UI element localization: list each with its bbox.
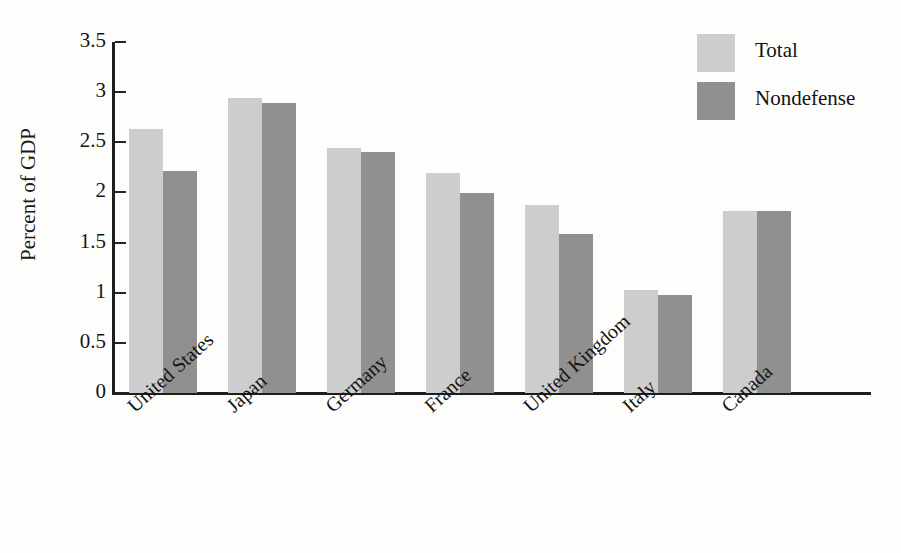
bar-nondefense-france	[460, 193, 494, 393]
y-axis-tick-label: 2.5	[0, 130, 106, 151]
legend-label-total: Total	[755, 38, 798, 63]
bar-chart: Percent of GDP 3.532.521.510.50 United S…	[0, 0, 901, 553]
bar-total-canada	[723, 211, 757, 393]
bar-nondefense-italy	[658, 295, 692, 393]
y-axis-tick-label: 0.5	[0, 331, 106, 352]
legend-swatch-nondefense	[697, 82, 735, 120]
y-axis-tick-label: 3	[0, 80, 106, 101]
bar-total-united-states	[129, 129, 163, 393]
y-axis-tick-label: 1.5	[0, 231, 106, 252]
y-axis-tick-label: 2	[0, 180, 106, 201]
bar-total-united-kingdom	[525, 205, 559, 393]
bar-nondefense-japan	[262, 103, 296, 393]
bar-total-germany	[327, 148, 361, 393]
y-axis-tick-label: 3.5	[0, 30, 106, 51]
legend-label-nondefense: Nondefense	[755, 86, 855, 111]
bar-total-japan	[228, 98, 262, 393]
bar-total-france	[426, 173, 460, 393]
y-axis-tick-label: 0	[0, 381, 106, 402]
legend-swatch-total	[697, 34, 735, 72]
y-axis-tick-label: 1	[0, 281, 106, 302]
